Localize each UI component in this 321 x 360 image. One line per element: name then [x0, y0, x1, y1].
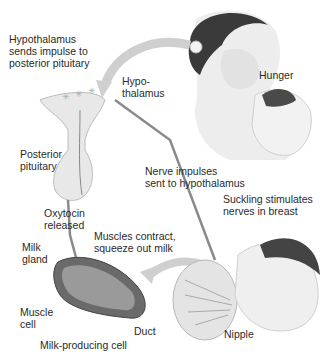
label-nerve-impulses: Nerve impulses sent to hypothalamus — [145, 165, 245, 189]
label-muscle-cell: Muscle cell — [20, 306, 53, 330]
pituitary-illustration: ✳ ✳ ✳ — [40, 86, 105, 200]
svg-text:✳: ✳ — [62, 92, 70, 102]
label-hypothalamus: Hypo- thalamus — [122, 75, 165, 99]
label-hunger: Hunger — [259, 69, 293, 81]
breast-baby-illustration — [173, 238, 320, 340]
label-duct: Duct — [134, 325, 156, 337]
mother-illustration — [189, 11, 312, 160]
label-milk-producing-cell: Milk-producing cell — [40, 339, 127, 351]
label-milk-gland: Milk gland — [22, 241, 48, 265]
label-nipple: Nipple — [224, 328, 254, 340]
svg-text:✳: ✳ — [88, 86, 96, 96]
milk-gland-illustration — [54, 257, 145, 318]
label-muscles-contract: Muscles contract, squeeze out milk — [94, 230, 176, 254]
label-suckling-stimulates: Suckling stimulates nerves in breast — [223, 193, 313, 217]
label-oxytocin-released: Oxytocin released — [44, 207, 85, 231]
label-posterior-pituitary: Posterior pituitary — [20, 148, 62, 172]
label-hypothalamus-sends-impulse: Hypothalamus sends impulse to posterior … — [9, 33, 90, 69]
svg-text:✳: ✳ — [75, 89, 83, 99]
